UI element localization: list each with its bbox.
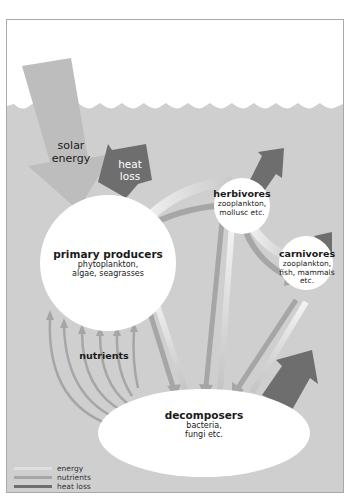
legend-label-heat-loss: heat loss [57, 482, 91, 491]
primary-producers-line1: phytoplankton, [40, 260, 176, 269]
decomposers-line1: bacteria, [150, 421, 258, 430]
legend-label-energy: energy [57, 464, 83, 473]
legend-swatch-heat-loss [14, 485, 52, 488]
carnivores-line3: etc. [274, 277, 340, 286]
herbivores-label: herbivores zooplankton, mollusc etc. [210, 189, 274, 217]
primary-producers-line2: algae, seagrasses [40, 269, 176, 278]
heat-loss-label-line2: loss [110, 170, 150, 182]
nutrients-label: nutrients [74, 351, 134, 362]
carnivores-label: carnivores zooplankton, fish, mammals et… [274, 249, 340, 286]
solar-energy-label: solar energy [42, 140, 100, 165]
legend: energy nutrients heat loss [14, 464, 91, 491]
decomposers-title: decomposers [150, 409, 258, 421]
heat-loss-label: heat loss [110, 158, 150, 182]
legend-item-nutrients: nutrients [14, 473, 91, 482]
nutrients-label-text: nutrients [74, 351, 134, 362]
legend-label-nutrients: nutrients [57, 473, 91, 482]
decomposers-line2: fungi etc. [150, 430, 258, 439]
legend-item-heat-loss: heat loss [14, 482, 91, 491]
legend-swatch-energy [14, 467, 52, 470]
decomposers-label: decomposers bacteria, fungi etc. [150, 409, 258, 439]
solar-energy-label-line2: energy [42, 153, 100, 166]
herbivores-line2: mollusc etc. [210, 209, 274, 218]
primary-producers-title: primary producers [40, 248, 176, 260]
primary-producers-label: primary producers phytoplankton, algae, … [40, 248, 176, 278]
legend-swatch-nutrients [14, 476, 52, 479]
solar-energy-label-line1: solar [42, 140, 100, 153]
heat-loss-label-line1: heat [110, 158, 150, 170]
legend-item-energy: energy [14, 464, 91, 473]
